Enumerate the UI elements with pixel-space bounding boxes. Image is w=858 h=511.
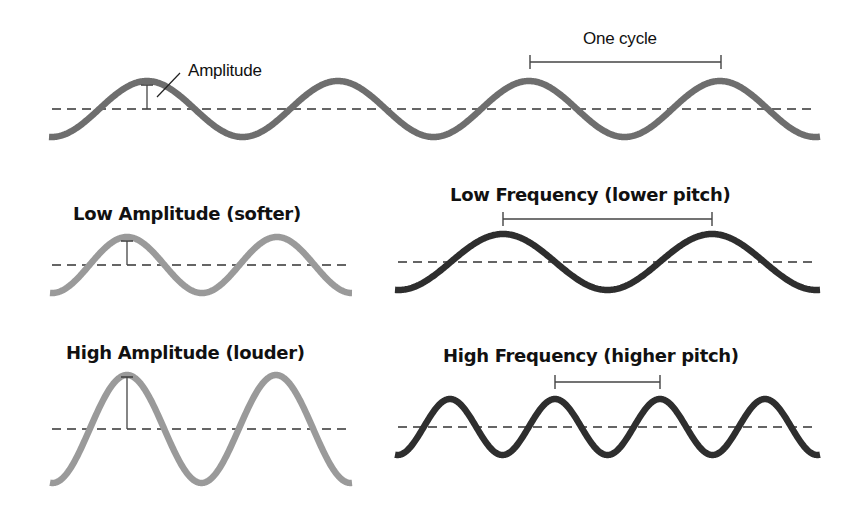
high-amplitude-heading: High Amplitude (louder)	[66, 342, 305, 363]
high-frequency-heading: High Frequency (higher pitch)	[443, 345, 739, 366]
cycle-brackets-group	[503, 55, 721, 389]
reference-amplitude-marker	[141, 85, 153, 109]
low-amplitude-heading: Low Amplitude (softer)	[73, 203, 301, 224]
low-amplitude-wave	[50, 237, 352, 293]
diagram-canvas	[0, 0, 858, 511]
waves-group	[49, 81, 820, 483]
low-amplitude-marker	[121, 241, 133, 265]
low-frequency-heading: Low Frequency (lower pitch)	[450, 184, 730, 205]
one-cycle-label: One cycle	[583, 29, 657, 49]
amplitude-label: Amplitude	[188, 61, 262, 81]
sound-wave-diagram: Amplitude One cycle Low Amplitude (softe…	[0, 0, 858, 511]
one-cycle-bracket	[530, 55, 721, 69]
high-amplitude-wave	[50, 375, 352, 483]
high-frequency-cycle-bracket	[555, 375, 660, 389]
high-amplitude-marker	[121, 377, 133, 429]
low-frequency-cycle-bracket	[503, 212, 712, 226]
